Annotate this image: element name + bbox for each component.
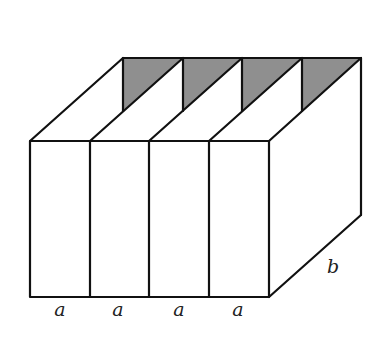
label-a-1: a <box>54 298 65 320</box>
label-b: b <box>327 255 339 277</box>
label-a-4: a <box>232 298 243 320</box>
label-a-3: a <box>173 298 184 320</box>
box-diagram: a a a a b <box>0 0 391 338</box>
top-diagonal-1 <box>30 58 123 141</box>
label-a-2: a <box>112 298 123 320</box>
bottom-depth-edge <box>269 215 361 297</box>
